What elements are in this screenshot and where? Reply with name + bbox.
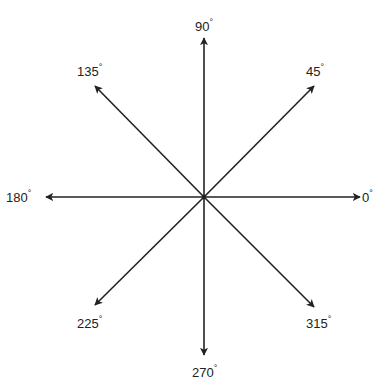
degree-symbol: ° bbox=[99, 314, 103, 324]
direction-diagram bbox=[0, 0, 387, 390]
degree-symbol: ° bbox=[28, 188, 32, 198]
arrow-135-deg-icon bbox=[95, 86, 204, 197]
angle-value: 270 bbox=[192, 365, 214, 380]
angle-label-270: 270° bbox=[192, 363, 217, 380]
angle-label-315: 315° bbox=[306, 314, 331, 331]
center-point-icon bbox=[202, 195, 206, 199]
degree-symbol: ° bbox=[328, 314, 332, 324]
angle-label-180: 180° bbox=[6, 188, 31, 205]
angle-label-225: 225° bbox=[77, 314, 102, 331]
angle-label-45: 45° bbox=[306, 62, 324, 79]
arrows-group bbox=[46, 38, 360, 355]
arrow-225-deg-icon bbox=[95, 197, 204, 305]
angle-value: 90 bbox=[195, 19, 209, 34]
arrow-315-deg-icon bbox=[204, 197, 314, 307]
angle-label-0: 0° bbox=[362, 188, 373, 205]
angle-value: 315 bbox=[306, 316, 328, 331]
angle-value: 225 bbox=[77, 316, 99, 331]
degree-symbol: ° bbox=[369, 188, 373, 198]
degree-symbol: ° bbox=[209, 17, 213, 27]
arrow-45-deg-icon bbox=[204, 86, 314, 197]
degree-symbol: ° bbox=[99, 62, 103, 72]
angle-value: 135 bbox=[77, 64, 99, 79]
angle-label-135: 135° bbox=[77, 62, 102, 79]
angle-value: 180 bbox=[6, 190, 28, 205]
degree-symbol: ° bbox=[214, 363, 218, 373]
angle-label-90: 90° bbox=[195, 17, 213, 34]
angle-value: 45 bbox=[306, 64, 320, 79]
degree-symbol: ° bbox=[320, 62, 324, 72]
